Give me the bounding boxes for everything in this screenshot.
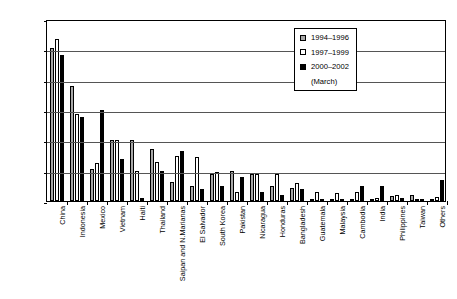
bar — [260, 192, 265, 201]
bar — [170, 182, 175, 201]
x-axis-label: El Salvador — [199, 206, 206, 243]
bar — [200, 189, 205, 201]
bar — [255, 174, 260, 201]
bar — [355, 192, 360, 201]
bar — [380, 186, 385, 201]
legend-swatch-icon-1994-1996 — [300, 35, 306, 41]
bar — [70, 86, 75, 201]
legend-item-1994-1996: 1994–1996 — [300, 34, 349, 42]
bar-group — [107, 21, 127, 201]
chart-legend: 1994–1996 1997–1999 2000–2002 (March) — [294, 28, 357, 91]
bar — [100, 110, 105, 201]
bar — [250, 174, 255, 201]
x-axis-label: South Korea — [219, 206, 226, 246]
x-axis-label: Mexico — [99, 206, 106, 229]
x-axis-label: Guatemala — [319, 206, 326, 241]
bar — [410, 195, 415, 201]
bar-group — [407, 21, 427, 201]
x-axis-tick-mark — [267, 201, 268, 205]
legend-label-1997-1999: 1997–1999 — [311, 49, 349, 57]
x-axis-tick-mark — [347, 201, 348, 205]
bar — [240, 177, 245, 201]
bar-group — [187, 21, 207, 201]
bar — [160, 171, 165, 201]
x-axis-label: Nicaragua — [259, 206, 266, 239]
bar — [175, 156, 180, 202]
bar-group — [147, 21, 167, 201]
bar — [340, 199, 345, 201]
bar — [360, 186, 365, 201]
bar — [280, 195, 285, 201]
x-axis-tick-mark — [167, 201, 168, 205]
bar — [300, 189, 305, 201]
bar-group — [207, 21, 227, 201]
bar — [120, 159, 125, 201]
x-axis-label: Honduras — [279, 206, 286, 237]
x-axis-label: Malaysia — [339, 206, 346, 234]
bar — [195, 157, 200, 201]
bar-group — [167, 21, 187, 201]
bar — [275, 174, 280, 201]
bar — [150, 149, 155, 201]
bar — [135, 171, 140, 201]
bar — [155, 162, 160, 201]
x-axis-label: Bangladesh — [299, 206, 306, 244]
bar-group — [427, 21, 447, 201]
bar — [190, 186, 195, 201]
gridline — [47, 173, 445, 174]
bar — [210, 174, 215, 201]
x-axis-labels: ChinaIndonesiaMexicoVietnamHaitiThailand… — [46, 206, 446, 299]
bar — [80, 117, 85, 201]
bar — [330, 199, 335, 201]
bar — [440, 180, 445, 201]
x-axis-label: Haiti — [139, 206, 146, 220]
x-axis-tick-mark — [207, 201, 208, 205]
bar — [230, 171, 235, 201]
bar — [420, 199, 425, 201]
bar — [320, 199, 325, 201]
bar — [435, 197, 440, 201]
bar — [395, 195, 400, 201]
bar-group — [47, 21, 67, 201]
x-axis-label: China — [59, 206, 66, 225]
y-axis-tick-mark — [44, 203, 47, 204]
x-axis-tick-mark — [107, 201, 108, 205]
x-axis-tick-mark — [127, 201, 128, 205]
bar — [375, 198, 380, 201]
x-axis-label: Philippines — [399, 206, 406, 241]
legend-sublabel-march: (March) — [311, 78, 349, 86]
y-axis-tick-mark — [44, 21, 47, 22]
bar — [215, 172, 220, 201]
bar — [430, 199, 435, 201]
gridline — [47, 142, 445, 143]
bar — [60, 55, 65, 201]
legend-item-2000-2002: 2000–2002 — [300, 63, 349, 71]
y-axis-tick-mark — [44, 112, 47, 113]
gridline — [47, 112, 445, 113]
legend-label-2000-2002: 2000–2002 — [311, 63, 349, 71]
bar-chart: ChinaIndonesiaMexicoVietnamHaitiThailand… — [0, 0, 457, 299]
x-axis-tick-mark — [87, 201, 88, 205]
bar — [95, 163, 100, 201]
bar — [390, 196, 395, 201]
plot-area — [46, 20, 446, 202]
x-axis-label: Vietnam — [119, 206, 126, 232]
gridline — [47, 51, 445, 52]
y-axis-tick-mark — [44, 173, 47, 174]
legend-swatch-icon-1997-1999 — [300, 49, 306, 55]
bar-group — [127, 21, 147, 201]
y-axis-tick-mark — [44, 51, 47, 52]
x-axis-tick-mark — [147, 201, 148, 205]
bar — [130, 140, 135, 201]
x-axis-tick-mark — [447, 201, 448, 205]
bar — [335, 193, 340, 201]
x-axis-label: India — [379, 206, 386, 222]
bar — [370, 199, 375, 201]
bar — [270, 186, 275, 201]
x-axis-tick-mark — [367, 201, 368, 205]
x-axis-label: Indonesia — [79, 206, 86, 237]
x-axis-tick-mark — [67, 201, 68, 205]
x-axis-tick-mark — [287, 201, 288, 205]
bar — [110, 140, 115, 201]
bar — [115, 140, 120, 201]
